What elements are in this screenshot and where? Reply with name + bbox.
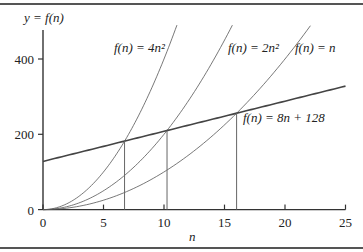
- x-tick-label: 25: [339, 215, 352, 230]
- label-n: f(n) = n: [295, 40, 336, 55]
- x-tick-label: 0: [40, 215, 47, 230]
- x-tick-label: 10: [158, 215, 171, 230]
- label-4n2: f(n) = 4n²: [114, 40, 166, 55]
- y-tick-label: 0: [28, 203, 35, 218]
- y-axis-label: y = f(n): [22, 10, 64, 25]
- chart: 05101520250200400 y = f(n) n f(n) = 4n² …: [0, 0, 363, 252]
- y-tick-label: 400: [15, 52, 35, 67]
- x-axis-label: n: [189, 229, 196, 244]
- label-line: f(n) = 8n + 128: [243, 110, 325, 125]
- y-tick-label: 200: [15, 127, 35, 142]
- label-2n2: f(n) = 2n²: [228, 40, 280, 55]
- plot-area: 05101520250200400: [15, 25, 353, 229]
- x-tick-label: 20: [279, 215, 292, 230]
- x-tick-label: 5: [100, 215, 107, 230]
- x-tick-label: 15: [218, 215, 231, 230]
